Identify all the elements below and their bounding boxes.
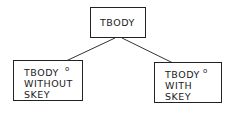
edge-root-left: [66, 38, 115, 61]
root-node: TBODY: [90, 7, 146, 38]
child-left-line-3: SKEY: [24, 89, 50, 100]
child-left-line-1: TBODY: [24, 67, 59, 78]
child-left-line-2: WITHOUT: [24, 78, 73, 89]
circle-marker-icon: o: [203, 66, 208, 77]
child-node-without-skey: TBODY o WITHOUT SKEY: [13, 60, 83, 101]
child-right-line-1: TBODY: [165, 69, 200, 80]
child-right-line-3: SKEY: [165, 91, 191, 102]
root-label: TBODY: [100, 17, 135, 28]
circle-marker-icon: o: [65, 64, 70, 75]
child-right-line-2: WITH: [165, 80, 192, 91]
edge-root-right: [122, 38, 173, 63]
child-node-with-skey: TBODY o WITH SKEY: [154, 62, 222, 103]
